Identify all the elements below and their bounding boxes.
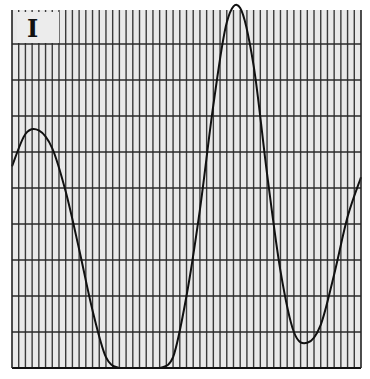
- waveform-chart: [0, 0, 370, 379]
- panel-label: I: [27, 14, 38, 44]
